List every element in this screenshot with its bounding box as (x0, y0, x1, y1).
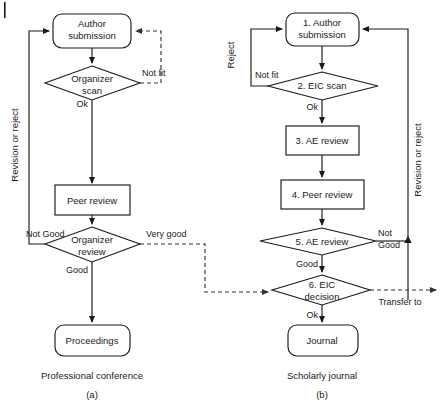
node-b-eic-decision-label-1: 6. EIC (309, 279, 336, 290)
edge-b-revision-or-reject (363, 29, 408, 300)
node-b-ae-review-label: 3. AE review (296, 135, 349, 146)
edge-label-b-not-fit: Not fit (255, 70, 279, 80)
edge-label-a-ok: Ok (76, 99, 88, 109)
edge-label-b-good: Good (296, 259, 318, 269)
node-a-proceedings-label: Proceedings (66, 335, 119, 346)
node-b-author-submission-label-1: 1. Author (303, 17, 341, 28)
node-a-author-submission-label-2: submission (68, 30, 116, 41)
edge-label-b-ok-scan: Ok (306, 102, 318, 112)
edge-label-b-ok-decision: Ok (306, 310, 318, 320)
page-margin-mark (4, 2, 6, 18)
node-b-ae-decision-label: 5. AE review (296, 236, 349, 247)
edge-label-b-not-good-1: Not (378, 228, 393, 238)
edge-b-not-good-arrowhead (404, 236, 412, 243)
node-b-peer-review-label: 4. Peer review (292, 189, 353, 200)
node-b-eic-decision-label-2: decision (305, 291, 340, 302)
node-a-organizer-review-label-1: Organizer (71, 234, 113, 245)
caption-a-letter: (a) (86, 389, 98, 400)
edge-label-b-transfer-to: Transfer to (378, 297, 421, 307)
node-b-author-submission-label-2: submission (298, 29, 346, 40)
node-a-organizer-scan-label-1: Organizer (71, 73, 113, 84)
edge-a-very-good-transfer (140, 244, 268, 292)
node-a-peer-review-label: Peer review (67, 195, 117, 206)
node-a-organizer-review-label-2: review (78, 246, 106, 257)
edge-label-a-not-good: Not Good (26, 229, 65, 239)
node-b-journal-label: Journal (306, 335, 337, 346)
side-label-b-reject: Reject (225, 41, 236, 68)
node-b-eic-scan-label: 2. EIC scan (297, 80, 346, 91)
edge-label-a-good: Good (66, 265, 88, 275)
side-label-a-revision-or-reject: Revision or reject (9, 108, 20, 182)
side-label-b-revision-or-reject: Revision or reject (412, 123, 423, 197)
caption-b-letter: (b) (316, 389, 328, 400)
node-a-organizer-scan-label-2: scan (82, 85, 102, 96)
edge-label-a-very-good: Very good (146, 229, 187, 239)
caption-a-title: Professional conference (41, 370, 143, 381)
caption-b-title: Scholarly journal (287, 370, 357, 381)
flowchart-canvas: Author submission Organizer scan Not fit… (0, 0, 442, 408)
node-a-author-submission-label-1: Author (78, 18, 106, 29)
edge-a-revision-or-reject (29, 31, 49, 244)
flowchart-figure: Author submission Organizer scan Not fit… (0, 0, 442, 408)
edge-label-a-not-fit: Not fit (142, 68, 166, 78)
